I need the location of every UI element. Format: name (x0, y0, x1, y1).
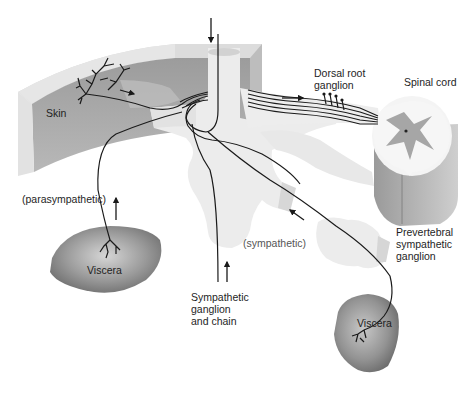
label-pvg-line2: sympathetic (396, 238, 453, 250)
sympathetic-visceral-arrow-icon (290, 210, 304, 220)
label-sgc-line3: and chain (191, 315, 249, 327)
label-sgc-line1: Sympathetic (191, 291, 249, 303)
label-viscera-left: Viscera (87, 264, 122, 276)
label-dorsal-root-line1: Dorsal root (314, 67, 365, 79)
label-prevertebral-ganglion: Prevertebral sympathetic ganglion (396, 226, 453, 262)
label-sympathetic-ganglion-chain: Sympathetic ganglion and chain (191, 291, 249, 327)
label-sgc-line2: ganglion (191, 303, 249, 315)
prevertebral-ganglion (316, 217, 390, 268)
label-parasympathetic: (parasympathetic) (22, 193, 106, 205)
label-dorsal-root-ganglion: Dorsal root ganglion (314, 67, 365, 91)
label-skin: Skin (46, 107, 66, 119)
label-viscera-right: Viscera (357, 317, 392, 329)
label-pvg-line3: ganglion (396, 250, 453, 262)
label-dorsal-root-line2: ganglion (314, 79, 365, 91)
label-pvg-line1: Prevertebral (396, 226, 453, 238)
label-sympathetic: (sympathetic) (243, 237, 306, 249)
spinal-cord (372, 96, 458, 226)
label-spinal-cord: Spinal cord (404, 76, 457, 88)
viscera-left-organ (50, 226, 161, 293)
